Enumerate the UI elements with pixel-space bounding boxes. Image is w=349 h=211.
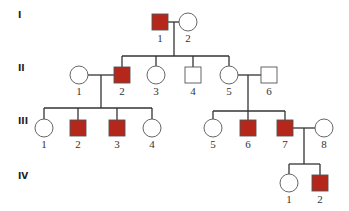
individual-number: 1 [286,193,292,205]
pedigree-chart: IIIIIIIV121234561234567812 [0,0,349,211]
individual-ii-5: 5 [220,66,238,97]
individual-number: 2 [317,193,323,205]
affected-male-symbol [152,14,168,30]
individual-number: 2 [119,85,125,97]
individual-number: 2 [185,32,191,44]
individual-number: 1 [41,138,47,150]
unaffected-female-symbol [143,119,161,137]
unaffected-female-symbol [315,119,333,137]
individual-iii-8: 8 [315,119,333,150]
individual-ii-1: 1 [70,66,88,97]
unaffected-female-symbol [220,66,238,84]
individual-iv-1: 1 [280,174,298,205]
individual-number: 5 [226,85,232,97]
individual-ii-6: 6 [261,67,277,97]
individual-number: 1 [157,32,163,44]
affected-male-symbol [109,120,125,136]
affected-male-symbol [114,67,130,83]
generation-label: I [18,10,21,20]
individual-number: 5 [210,138,216,150]
individual-number: 4 [190,85,196,97]
individual-ii-4: 4 [185,67,201,97]
individual-number: 2 [75,138,81,150]
individual-iii-7: 7 [277,120,293,150]
pedigree-svg: IIIIIIIV121234561234567812 [0,0,349,211]
unaffected-female-symbol [35,119,53,137]
individual-iii-2: 2 [70,120,86,150]
affected-male-symbol [277,120,293,136]
individual-number: 1 [76,85,82,97]
individual-ii-2: 2 [114,67,130,97]
affected-male-symbol [312,175,328,191]
unaffected-male-symbol [261,67,277,83]
individual-number: 3 [114,138,120,150]
generation-label: III [18,116,28,126]
individual-number: 7 [282,138,288,150]
affected-male-symbol [70,120,86,136]
individual-number: 4 [149,138,155,150]
affected-male-symbol [240,120,256,136]
individual-iii-3: 3 [109,120,125,150]
unaffected-female-symbol [147,66,165,84]
unaffected-male-symbol [185,67,201,83]
unaffected-female-symbol [280,174,298,192]
individual-iii-4: 4 [143,119,161,150]
generation-label: II [18,63,25,73]
generation-label: IV [18,171,28,181]
individual-number: 6 [245,138,251,150]
unaffected-female-symbol [179,13,197,31]
connector-lines [44,22,320,175]
unaffected-female-symbol [204,119,222,137]
individual-number: 8 [321,138,327,150]
individual-iii-1: 1 [35,119,53,150]
individual-i-1: 1 [152,14,168,44]
individual-iii-5: 5 [204,119,222,150]
individual-iv-2: 2 [312,175,328,205]
individual-iii-6: 6 [240,120,256,150]
unaffected-female-symbol [70,66,88,84]
individual-i-2: 2 [179,13,197,44]
individual-number: 3 [153,85,159,97]
individual-number: 6 [266,85,272,97]
individual-ii-3: 3 [147,66,165,97]
